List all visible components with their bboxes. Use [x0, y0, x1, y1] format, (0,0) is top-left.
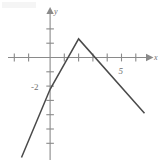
y-axis-arrowhead — [46, 7, 53, 14]
x-axis — [8, 54, 154, 62]
coordinate-plane: x y -2 5 — [0, 0, 163, 163]
x-tick-label-five: 5 — [119, 66, 124, 76]
function-curve — [22, 39, 145, 158]
x-axis-label: x — [153, 53, 158, 62]
x-axis-arrowhead — [146, 54, 154, 61]
y-axis-label: y — [53, 7, 58, 16]
graph-figure: x y -2 5 — [0, 0, 163, 163]
y-tick-label-negative-two: -2 — [31, 82, 39, 92]
